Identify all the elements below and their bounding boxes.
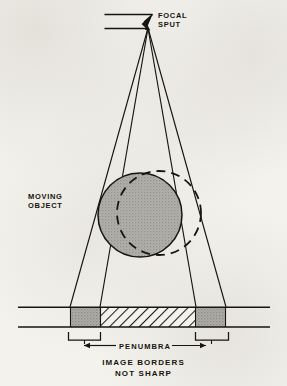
beam-ray-group	[70, 28, 226, 307]
focal-spot-label: FOCAL SPUT	[158, 11, 187, 29]
left-penumbra-bracket	[69, 332, 101, 340]
umbra-block	[100, 308, 196, 328]
right-penumbra-bracket	[196, 332, 229, 340]
right-penumbra-arrowhead	[200, 343, 206, 348]
outer-left-ray	[70, 28, 148, 307]
figure-page: I I I I	[0, 0, 287, 386]
right-penumbra-block	[196, 308, 226, 328]
penumbra-label: PENUMBRA	[119, 342, 171, 351]
outer-right-ray	[148, 28, 226, 307]
focal-spot-assembly	[105, 15, 153, 31]
inner-right-ray	[148, 28, 196, 307]
left-penumbra-block	[70, 308, 100, 328]
inner-left-ray	[100, 28, 148, 307]
detector-band	[18, 307, 270, 327]
moving-object-label: MOVING OBJECT	[28, 192, 63, 210]
object-solid-circle	[98, 173, 182, 257]
figure-caption: IMAGE BORDERS NOT SHARP	[0, 358, 287, 379]
